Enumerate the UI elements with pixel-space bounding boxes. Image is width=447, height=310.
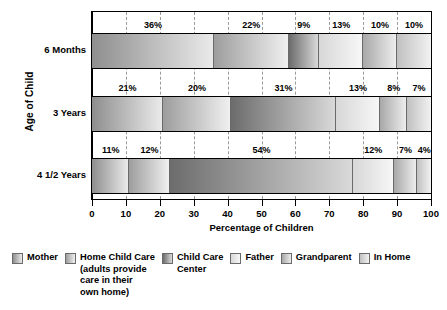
bar-segment-mother[interactable] [92,159,129,193]
legend-item-home[interactable]: Home Child Care (adults provide care in … [65,252,155,298]
bar-segment-father[interactable] [336,97,380,131]
legend-label-mother: Mother [27,252,58,264]
bar-segment-father[interactable] [319,34,363,68]
legend-item-center[interactable]: Child Care Center [162,252,224,275]
bar-segment-center[interactable] [231,97,336,131]
legend-label-center: Child Care Center [177,252,224,275]
value-label-father: 13% [336,82,380,96]
bar-segment-father[interactable] [353,159,394,193]
gridline-100 [431,12,432,199]
bar-segment-inhome[interactable] [407,97,431,131]
bar-segment-grandparent[interactable] [363,34,397,68]
value-label-grandparent: 7% [394,144,418,158]
x-axis-title: Percentage of Children [91,222,432,233]
stacked-bar-chart: Age of Child 6 Months3 Years4 1/2 Years … [0,0,447,310]
plot-inner: 36%22%9%13%10%10%21%20%31%13%8%7%11%12%5… [92,12,431,199]
bar-segment-home[interactable] [129,159,170,193]
x-tick-100 [431,200,432,206]
value-label-inhome: 7% [407,82,431,96]
legend-swatch-mother-icon [12,253,23,264]
value-label-center: 9% [289,19,320,33]
value-label-inhome: 4% [417,144,431,158]
plot-area: 36%22%9%13%10%10%21%20%31%13%8%7%11%12%5… [91,11,432,200]
category-label-6-months: 6 Months [2,44,86,55]
stacked-bar-6-months[interactable] [92,33,431,69]
x-tick-40 [228,200,229,206]
bar-segment-mother[interactable] [92,97,163,131]
legend-item-inhome[interactable]: In Home [359,252,411,264]
value-label-row: 21%20%31%13%8%7% [92,82,431,96]
x-tick-label-50: 50 [256,208,267,219]
legend-swatch-father-icon [230,253,241,264]
x-tick-label-30: 30 [188,208,199,219]
value-label-inhome: 10% [397,19,431,33]
y-axis-category-labels: 6 Months3 Years4 1/2 Years [0,0,86,200]
x-tick-80 [363,200,364,206]
x-tick-label-80: 80 [358,208,369,219]
bar-segment-grandparent[interactable] [380,97,407,131]
x-tick-10 [126,200,127,206]
legend-swatch-home-icon [65,253,76,264]
value-label-mother: 11% [92,144,129,158]
x-tick-60 [295,200,296,206]
category-label-4-1-2-years: 4 1/2 Years [2,169,86,180]
x-tick-0 [92,200,93,206]
x-tick-30 [194,200,195,206]
stacked-bar-4-1-2-years[interactable] [92,158,431,194]
bar-segment-home[interactable] [214,34,289,68]
x-tick-label-100: 100 [423,208,439,219]
legend-label-home: Home Child Care (adults provide care in … [80,252,155,298]
legend-swatch-grandparent-icon [281,253,292,264]
value-label-home: 22% [214,19,289,33]
value-label-mother: 36% [92,19,214,33]
value-label-home: 12% [129,144,170,158]
x-tick-label-90: 90 [392,208,403,219]
x-tick-label-70: 70 [324,208,335,219]
legend-item-grandparent[interactable]: Grandparent [281,252,352,264]
value-label-grandparent: 8% [380,82,407,96]
value-label-row: 36%22%9%13%10%10% [92,19,431,33]
bar-segment-home[interactable] [163,97,231,131]
value-label-home: 20% [163,82,231,96]
value-label-mother: 21% [92,82,163,96]
x-tick-label-0: 0 [89,208,94,219]
chart-legend: MotherHome Child Care (adults provide ca… [12,252,440,298]
value-label-center: 54% [170,144,353,158]
x-tick-label-60: 60 [290,208,301,219]
legend-swatch-inhome-icon [359,253,370,264]
x-tick-90 [397,200,398,206]
legend-item-father[interactable]: Father [230,252,273,264]
value-label-father: 12% [353,144,394,158]
value-label-father: 13% [319,19,363,33]
x-tick-label-10: 10 [121,208,132,219]
bar-segment-center[interactable] [170,159,353,193]
legend-label-grandparent: Grandparent [296,252,352,264]
bar-segment-inhome[interactable] [417,159,431,193]
x-tick-70 [329,200,330,206]
category-label-3-years: 3 Years [2,107,86,118]
x-tick-label-40: 40 [222,208,233,219]
legend-label-father: Father [245,252,273,264]
value-label-center: 31% [231,82,336,96]
bar-segment-grandparent[interactable] [394,159,418,193]
legend-swatch-center-icon [162,253,173,264]
value-label-row: 11%12%54%12%7%4% [92,144,431,158]
value-label-grandparent: 10% [363,19,397,33]
legend-label-inhome: In Home [374,252,411,264]
bar-segment-inhome[interactable] [397,34,431,68]
bar-segment-mother[interactable] [92,34,214,68]
legend-item-mother[interactable]: Mother [12,252,58,264]
x-tick-50 [262,200,263,206]
stacked-bar-3-years[interactable] [92,96,431,132]
x-tick-20 [160,200,161,206]
x-tick-label-20: 20 [155,208,166,219]
bar-segment-center[interactable] [289,34,320,68]
